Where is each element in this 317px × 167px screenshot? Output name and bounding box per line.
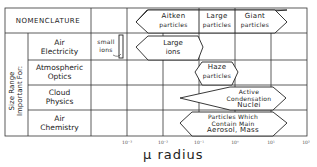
haze-particles-label: Haze particles <box>199 64 235 79</box>
row-label-line1: Cloud <box>28 88 91 97</box>
shape-line2: particles <box>235 21 275 29</box>
tick-1e-2: 10⁻² <box>158 140 168 145</box>
shape-line2: ions <box>93 46 119 54</box>
row-air-chemistry: Air Chemistry <box>28 114 91 132</box>
shape-line2: particles <box>148 21 199 29</box>
row-label-line1: Atmospheric <box>28 63 91 72</box>
giant-particles-label: Giant particles <box>235 13 275 28</box>
shape-line2: particles <box>199 72 235 80</box>
shape-line1: Large <box>148 39 198 48</box>
tick-1e-3: 10⁻³ <box>122 140 132 145</box>
row-label-line1: Air <box>28 114 91 123</box>
large-ions-label: Large ions <box>148 39 198 57</box>
shape-line1: Giant <box>235 13 275 21</box>
shape-line1: Haze <box>199 64 235 72</box>
row-label-line2: Electricity <box>28 47 91 56</box>
shape-line3: Aerosol, Mass <box>192 127 274 134</box>
tick-1e0: 10⁰ <box>231 140 239 145</box>
shape-line1: Aitken <box>148 13 199 21</box>
tick-1e1: 10¹ <box>267 140 275 145</box>
side-label: Size Range Important For: <box>8 51 24 131</box>
shape-line1: Active <box>214 88 284 95</box>
tick-1e2: 10² <box>302 140 310 145</box>
active-ccn-label: Active Condensation Nuclei <box>214 88 284 109</box>
aerosol-mass-label: Particles Which Contain Main Aerosol, Ma… <box>192 113 274 134</box>
shape-line3: Nuclei <box>214 102 284 109</box>
row-label-line2: Chemistry <box>28 123 91 132</box>
shape-line1: small <box>93 38 119 46</box>
side-label-line1: Size Range <box>8 51 16 131</box>
row-air-electricity: Air Electricity <box>28 38 91 56</box>
shape-line2: ions <box>148 48 198 57</box>
nomenclature-header: NOMENCLATURE <box>5 17 91 26</box>
side-label-line2: Important For: <box>16 51 24 131</box>
row-label-line2: Optics <box>28 72 91 81</box>
tick-1e-1: 10⁻¹ <box>194 140 204 145</box>
aitken-particles-label: Aitken particles <box>148 13 199 28</box>
shape-line1: Large <box>199 13 235 21</box>
row-cloud-physics: Cloud Physics <box>28 88 91 106</box>
row-atmospheric-optics: Atmospheric Optics <box>28 63 91 81</box>
shape-line1: Particles Which <box>192 113 274 120</box>
axis-label: μ radius <box>143 147 204 162</box>
shape-line2: particles <box>199 21 235 29</box>
large-particles-label: Large particles <box>199 13 235 28</box>
row-label-line2: Physics <box>28 97 91 106</box>
small-ions-label: small ions <box>93 38 119 53</box>
row-label-line1: Air <box>28 38 91 47</box>
